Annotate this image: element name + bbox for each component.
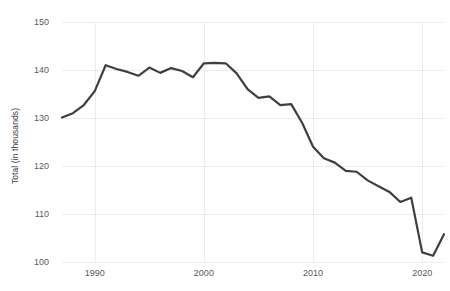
gridline-horizontal: [62, 262, 444, 263]
line-chart: Total (in thousands) 150140130120110100 …: [0, 0, 450, 291]
plot-area: 150140130120110100 1990200020102020: [62, 22, 444, 262]
y-axis-title: Total (in thousands): [6, 0, 24, 291]
x-axis-tick-label: 2020: [392, 268, 450, 278]
x-axis-tick-label: 2000: [174, 268, 234, 278]
series-total-line: [62, 22, 444, 262]
x-axis-tick-label: 1990: [65, 268, 125, 278]
y-axis-tick-label: 120: [0, 161, 49, 171]
y-axis-tick-label: 100: [0, 257, 49, 267]
y-axis-tick-label: 140: [0, 65, 49, 75]
y-axis-tick-label: 130: [0, 113, 49, 123]
y-axis-tick-label: 110: [0, 209, 49, 219]
x-axis-tick-label: 2010: [283, 268, 343, 278]
y-axis-tick-label: 150: [0, 17, 49, 27]
